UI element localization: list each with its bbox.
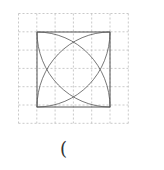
answer-parenthesis: ( (60, 140, 67, 158)
geometry-figure (0, 0, 164, 170)
